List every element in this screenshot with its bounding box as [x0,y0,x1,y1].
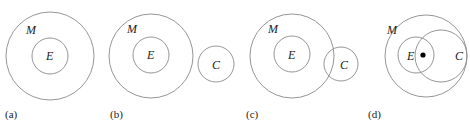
label-m: M [386,23,398,37]
label-c: C [455,49,464,63]
label-e: E [287,48,296,62]
label-e: E [146,48,155,62]
caption-c: (c) [246,108,259,121]
panel-b: M E C (b) [109,14,234,121]
label-c: C [212,58,221,72]
panel-d: M E C (d) [368,15,467,121]
label-m: M [126,22,138,36]
panel-c: M E C (c) [246,14,358,121]
label-c: C [340,58,349,72]
label-e: E [406,49,415,63]
panel-a: M E (a) [5,12,94,121]
caption-b: (b) [110,108,123,121]
caption-a: (a) [5,108,18,121]
circle-e [398,37,434,73]
label-m: M [267,22,279,36]
label-m: M [25,23,37,37]
caption-d: (d) [368,108,381,121]
intersection-point-dot [420,52,425,57]
venn-diagram-figure: M E (a) M E C (b) M E C (c) M E C (d) [0,0,470,127]
label-e: E [45,49,54,63]
